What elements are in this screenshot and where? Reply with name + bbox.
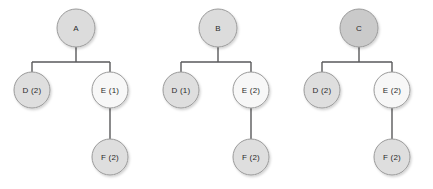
tree-b-node-root-label: B	[215, 24, 221, 33]
tree-b-node-left-label: D (1)	[172, 86, 191, 95]
tree-a-node-grandchild[interactable]: F (2)	[92, 139, 128, 175]
tree-c-node-right-label: E (2)	[383, 86, 401, 95]
tree-a-node-root-label: A	[73, 24, 79, 33]
tree-a-node-root[interactable]: A	[57, 9, 95, 47]
tree-b-node-left[interactable]: D (1)	[163, 72, 199, 108]
tree-a: AD (2)E (1)F (2)	[14, 9, 128, 175]
tree-b-node-right-label: E (2)	[242, 86, 260, 95]
tree-c-node-left-label: D (2)	[313, 86, 332, 95]
tree-a-node-right-label: E (1)	[101, 86, 119, 95]
tree-b-node-grandchild[interactable]: F (2)	[233, 139, 269, 175]
tree-c-node-grandchild-label: F (2)	[383, 153, 401, 162]
tree-c: CD (2)E (2)F (2)	[304, 9, 410, 175]
tree-a-node-grandchild-label: F (2)	[101, 153, 119, 162]
tree-c-node-root[interactable]: C	[340, 9, 378, 47]
tree-b: BD (1)E (2)F (2)	[163, 9, 269, 175]
tree-a-node-left-label: D (2)	[23, 86, 42, 95]
tree-c-node-grandchild[interactable]: F (2)	[374, 139, 410, 175]
diagram-canvas: AD (2)E (1)F (2)BD (1)E (2)F (2)CD (2)E …	[0, 0, 433, 189]
tree-a-node-right[interactable]: E (1)	[92, 72, 128, 108]
tree-c-node-left[interactable]: D (2)	[304, 72, 340, 108]
tree-a-node-left[interactable]: D (2)	[14, 72, 50, 108]
tree-c-node-right[interactable]: E (2)	[374, 72, 410, 108]
tree-b-node-right[interactable]: E (2)	[233, 72, 269, 108]
trees-svg: AD (2)E (1)F (2)BD (1)E (2)F (2)CD (2)E …	[0, 0, 433, 189]
tree-b-node-grandchild-label: F (2)	[242, 153, 260, 162]
tree-c-node-root-label: C	[356, 24, 362, 33]
tree-b-node-root[interactable]: B	[199, 9, 237, 47]
